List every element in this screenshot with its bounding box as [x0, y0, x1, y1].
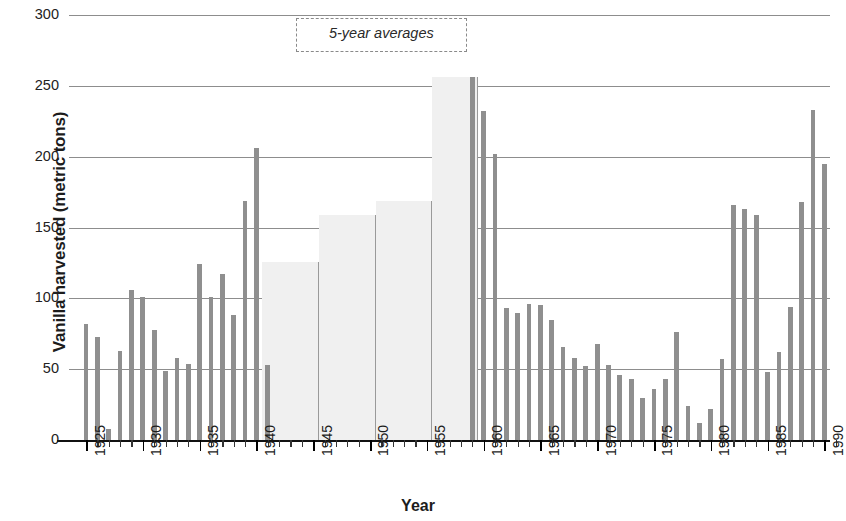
x-axis-tick [574, 440, 575, 447]
x-axis-tick [86, 440, 88, 451]
bar [152, 330, 157, 441]
x-axis-tick [768, 440, 770, 451]
y-axis-tick-label: 50 [15, 360, 59, 376]
bar [629, 379, 634, 440]
bar [788, 307, 793, 440]
gridline-300 [69, 15, 830, 16]
bar [118, 351, 123, 440]
bar [84, 324, 89, 440]
bar [652, 389, 657, 440]
x-axis-tick-label: 1945 [319, 425, 335, 456]
bar [209, 297, 214, 440]
x-axis-tick-label: 1970 [603, 425, 619, 456]
x-axis-tick [245, 440, 246, 447]
bar [595, 344, 600, 440]
x-axis-tick [393, 440, 394, 447]
bar [754, 215, 759, 440]
x-axis-tick [415, 440, 416, 447]
bar [674, 332, 679, 440]
bar [549, 320, 554, 440]
x-axis-tick [143, 440, 145, 451]
x-axis-tick [336, 440, 337, 447]
x-axis-tick-label: 1990 [830, 425, 846, 456]
bar [640, 398, 645, 441]
bar [481, 111, 486, 440]
x-axis-tick [484, 440, 486, 451]
x-axis-tick [813, 440, 814, 447]
bar [765, 372, 770, 440]
x-axis-tick [404, 440, 405, 447]
x-axis-tick [790, 440, 791, 447]
x-axis-tick [711, 440, 713, 451]
bar [254, 148, 259, 440]
x-axis-tick [540, 440, 542, 451]
average-bar [376, 201, 433, 440]
x-axis-tick [109, 440, 110, 447]
x-axis-tick [620, 440, 621, 447]
x-axis-tick [200, 440, 202, 451]
x-axis-tick [506, 440, 507, 447]
x-axis-tick [518, 440, 519, 447]
x-axis-tick-label: 1975 [659, 425, 675, 456]
bar [220, 274, 225, 440]
bar [129, 290, 134, 440]
x-axis-tick-label: 1935 [205, 425, 221, 456]
x-axis-tick [461, 440, 462, 447]
x-axis-tick-label: 1960 [489, 425, 505, 456]
x-axis-tick [166, 440, 167, 447]
bar [538, 305, 543, 440]
x-axis-tick [597, 440, 599, 451]
y-axis-tick-label: 300 [15, 6, 59, 22]
x-axis-tick [586, 440, 587, 447]
x-axis-tick-label: 1955 [432, 425, 448, 456]
bar [186, 364, 191, 441]
bar [493, 154, 498, 440]
x-axis-tick [677, 440, 678, 447]
bar [197, 264, 202, 440]
bar [799, 202, 804, 440]
x-axis-tick [370, 440, 372, 451]
x-axis-tick-label: 1925 [92, 425, 108, 456]
y-axis-tick-label: 150 [15, 219, 59, 235]
x-axis-tick-label: 1930 [148, 425, 164, 456]
x-axis-tick [688, 440, 689, 447]
x-axis-tick [347, 440, 348, 447]
average-bar [262, 262, 319, 441]
x-axis-tick-label: 1985 [773, 425, 789, 456]
y-axis-tick-label: 250 [15, 77, 59, 93]
x-axis-tick [654, 440, 656, 451]
x-axis-title: Year [0, 497, 836, 515]
x-axis-tick [177, 440, 178, 447]
y-axis-tick-label: 200 [15, 148, 59, 164]
bar [731, 205, 736, 440]
bar [822, 164, 827, 440]
x-axis-tick [313, 440, 315, 451]
y-axis-tick-label: 100 [15, 289, 59, 305]
bar [504, 308, 509, 440]
bar [515, 313, 520, 441]
x-axis-tick [745, 440, 746, 447]
bar [811, 110, 816, 440]
x-axis-tick [563, 440, 564, 447]
bar [572, 358, 577, 440]
bar [140, 297, 145, 440]
bar [583, 366, 588, 440]
bar [243, 201, 248, 440]
x-axis-tick [643, 440, 644, 447]
x-axis-tick [427, 440, 429, 451]
x-axis-tick [222, 440, 223, 447]
average-bar [319, 215, 376, 440]
bar [708, 409, 713, 440]
x-axis-tick [302, 440, 303, 447]
x-axis-tick [359, 440, 360, 447]
x-axis-tick [290, 440, 291, 447]
x-axis-tick [529, 440, 530, 447]
x-axis-tick [279, 440, 280, 447]
x-axis-tick [188, 440, 189, 447]
x-axis-tick-label: 1980 [716, 425, 732, 456]
x-axis-tick [234, 440, 235, 447]
x-axis-tick [472, 440, 473, 447]
x-axis-tick-label: 1965 [546, 425, 562, 456]
bar [175, 358, 180, 440]
